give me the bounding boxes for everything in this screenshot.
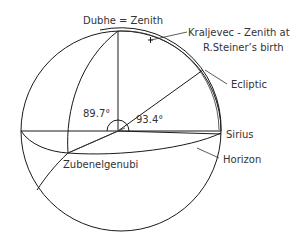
zubenelgenubi-label: Zubenelgenubi [63, 159, 138, 170]
horizon-label: Horizon [223, 154, 261, 165]
horizon-leader [197, 148, 219, 158]
zenith-label: Dubhe = Zenith [83, 15, 163, 26]
celestial-sphere-diagram: Dubhe = Zenith Kraljevec - Zenith at R.S… [0, 0, 293, 238]
angle-arc-left [107, 120, 118, 131]
zubenelgenubi-line-2 [68, 128, 125, 153]
kraljevec-label-line2: R.Steiner’s birth [203, 42, 284, 53]
kraljevec-leader [151, 32, 187, 40]
ecliptic-label: Ecliptic [231, 79, 267, 90]
horizon-curve [21, 131, 221, 154]
angle-right-label: 93.4° [136, 114, 163, 125]
angle-left-label: 89.7° [83, 108, 110, 119]
kraljevec-label-line1: Kraljevec - Zenith at [188, 27, 290, 38]
sirius-label: Sirius [226, 129, 254, 140]
